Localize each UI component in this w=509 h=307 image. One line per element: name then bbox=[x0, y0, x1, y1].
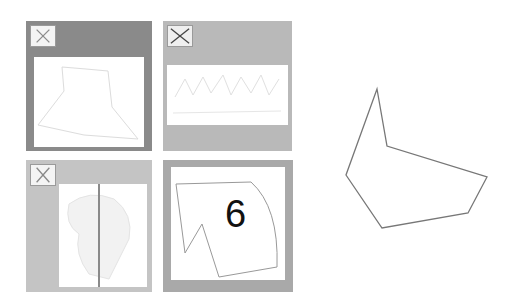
puzzle-tile-3[interactable] bbox=[26, 160, 152, 292]
tile-image-panel: 6 bbox=[171, 167, 285, 280]
zigzag-pattern-icon bbox=[167, 65, 288, 125]
close-x-icon[interactable] bbox=[167, 25, 193, 47]
puzzle-tile-4[interactable]: 6 bbox=[163, 160, 293, 292]
split-sketch-icon bbox=[59, 184, 147, 287]
reference-shape bbox=[340, 85, 495, 235]
faint-shape-icon bbox=[34, 57, 144, 147]
tile-number-label: 6 bbox=[225, 195, 246, 233]
close-x-icon[interactable] bbox=[30, 164, 56, 186]
puzzle-tile-2[interactable] bbox=[163, 21, 292, 151]
tile-image-panel bbox=[34, 57, 144, 147]
puzzle-tile-1[interactable] bbox=[26, 21, 152, 151]
tile-image-panel bbox=[59, 184, 147, 287]
tile-image-panel bbox=[167, 65, 288, 125]
hexagon-outline-icon bbox=[340, 85, 495, 235]
close-x-icon[interactable] bbox=[30, 25, 56, 47]
